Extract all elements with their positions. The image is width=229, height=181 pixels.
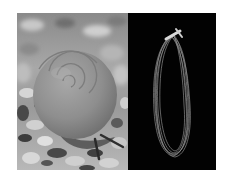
fiber-loop-image [128,13,216,170]
snail-photo [17,13,128,170]
fiber-loop-panel [128,13,216,170]
image-figure [17,13,216,170]
snail-photo-panel [17,13,128,170]
